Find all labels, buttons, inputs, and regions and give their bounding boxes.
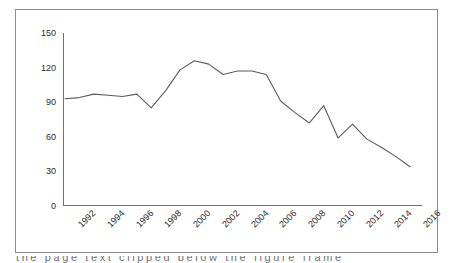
x-tick-label: 2010	[335, 208, 357, 230]
clipped-caption: the page text clipped below the figure f…	[16, 256, 446, 263]
x-tick-label: 1994	[105, 208, 127, 230]
x-tick-label: 2008	[306, 208, 328, 230]
figure-container: Number of submissions 0306090120150 1992…	[0, 0, 454, 263]
data-series-line	[65, 61, 410, 167]
x-tick-label: 2004	[248, 208, 270, 230]
caption-text: the page text clipped below the figure f…	[16, 256, 344, 263]
line-chart-svg	[63, 33, 422, 206]
y-tick-label: 90	[46, 97, 56, 107]
plot-area	[63, 33, 422, 206]
axes-group	[63, 33, 422, 206]
y-tick-label: 120	[41, 63, 56, 73]
y-tick-label: 60	[46, 132, 56, 142]
y-tick-label: 30	[46, 166, 56, 176]
x-tick-label: 1998	[162, 208, 184, 230]
x-tick-label: 1996	[133, 208, 155, 230]
x-tick-label: 2002	[220, 208, 242, 230]
y-tick-label: 150	[41, 28, 56, 38]
x-axis-tick-labels: 1992199419961998200020022004200620082010…	[63, 208, 433, 258]
x-tick-label: 2012	[363, 208, 385, 230]
x-tick-label: 2000	[191, 208, 213, 230]
x-tick-label: 1992	[76, 208, 98, 230]
x-tick-label: 2016	[421, 208, 443, 230]
x-tick-label: 2014	[392, 208, 414, 230]
y-axis-tick-labels: 0306090120150	[28, 33, 56, 206]
x-tick-label: 2006	[277, 208, 299, 230]
y-tick-label: 0	[51, 201, 56, 211]
